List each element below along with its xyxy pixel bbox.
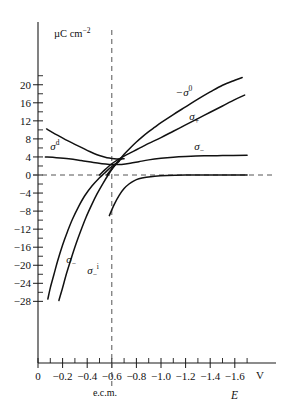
x-tick-label: −0.2 xyxy=(53,370,73,382)
curve-sigma-minus-upper xyxy=(45,155,247,164)
y-tick-label: 20 xyxy=(20,79,32,91)
y-tick-label: −8 xyxy=(19,205,31,217)
curve-label-sigma-minus-i: σ−i xyxy=(87,262,99,279)
x-axis-unit-label: V xyxy=(256,369,264,381)
y-tick-label: −20 xyxy=(14,259,32,271)
y-tick-label: 8 xyxy=(26,133,32,145)
y-tick-label: 16 xyxy=(20,97,32,109)
x-tick-label: −1.0 xyxy=(151,370,171,382)
curve-label--sigma-0: −σ0 xyxy=(176,84,193,98)
y-tick-label: −12 xyxy=(14,223,31,235)
curve-sigma-minus-lower xyxy=(48,161,119,299)
y-axis-tick-labels: 201612840−4−8−12−16−20−24−28 xyxy=(14,79,32,308)
curve--sigma-0 xyxy=(107,78,242,175)
figure-container: 201612840−4−8−12−16−20−24−28 0−0.2−0.4−0… xyxy=(0,0,283,416)
ecm-annotation-label: e.c.m. xyxy=(93,387,117,398)
curve-label-subscript: − xyxy=(200,146,204,155)
curve-label-subscript: − xyxy=(93,270,97,279)
y-unit-base: µC cm xyxy=(54,28,83,39)
x-axis-tick-labels: 0−0.2−0.4−0.6−0.8−1.0−1.2−1.4−1.6 xyxy=(35,370,245,382)
y-axis-minor-ticks xyxy=(38,76,43,293)
curve-label-subscript: + xyxy=(195,116,199,125)
curve-label-superscript: d xyxy=(56,138,60,147)
y-unit-exponent: −2 xyxy=(83,26,91,35)
curve-label-subscript: − xyxy=(72,259,76,268)
x-axis-minor-ticks xyxy=(50,358,247,363)
guide-lines xyxy=(33,30,272,386)
electrocapillarity-chart: 201612840−4−8−12−16−20−24−28 0−0.2−0.4−0… xyxy=(0,0,283,416)
x-axis-name-label: E xyxy=(230,389,238,401)
x-tick-label: 0 xyxy=(35,370,41,382)
y-tick-label: −28 xyxy=(14,295,32,307)
x-tick-label: −1.4 xyxy=(200,370,220,382)
x-tick-label: −0.8 xyxy=(126,370,146,382)
y-tick-label: 12 xyxy=(20,115,31,127)
y-tick-label: −24 xyxy=(14,277,32,289)
curve-label-superscript: i xyxy=(97,262,99,271)
curve-sigma-zero-plateau xyxy=(109,175,247,216)
curve-label-symbol: −σ xyxy=(176,86,189,98)
curve-label-superscript: 0 xyxy=(189,84,193,93)
x-tick-label: −1.2 xyxy=(176,370,196,382)
curve-label-sigma-d: σd xyxy=(50,138,59,152)
y-tick-label: 0 xyxy=(26,169,32,181)
y-tick-label: −16 xyxy=(14,241,32,253)
x-tick-label: −1.6 xyxy=(225,370,245,382)
curve-label-sigma-minus-lower: σ− xyxy=(66,253,76,268)
x-tick-label: −0.4 xyxy=(77,370,97,382)
curve-sigma-plus xyxy=(100,95,245,175)
curve-label-sigma-minus-upper: σ− xyxy=(194,140,204,155)
y-axis-unit-label: µC cm−2 xyxy=(54,26,91,39)
y-tick-label: 4 xyxy=(26,151,32,163)
axis-group xyxy=(38,22,276,363)
y-tick-label: −4 xyxy=(19,187,31,199)
